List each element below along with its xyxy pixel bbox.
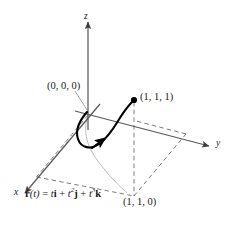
vector-function-diagram: z y x (0, 0, 0) (1, 1, 1) (1, 1, 0) r(t)… xyxy=(0,0,229,226)
y-axis xyxy=(75,111,209,146)
equation-equals: = xyxy=(42,188,48,199)
endpoint-dot xyxy=(131,97,137,103)
projection-curve-in-plane xyxy=(86,115,127,193)
equation-lhs-argument: (t) xyxy=(30,188,40,199)
curve-direction-arrow xyxy=(92,139,104,148)
square-edge-y-to-origin xyxy=(136,121,186,134)
vector-function-equation: r(t) = ti + t2j + t3k xyxy=(25,187,101,199)
endpoint-label: (1, 1, 1) xyxy=(140,92,173,103)
equation-plus-1: + xyxy=(59,188,65,199)
equation-plus-2: + xyxy=(80,188,86,199)
projection-point-label: (1, 1, 0) xyxy=(123,197,156,208)
equation-term3-unit: k xyxy=(95,188,101,199)
y-axis-label: y xyxy=(216,139,220,149)
z-axis-label: z xyxy=(84,12,88,22)
x-axis xyxy=(25,104,100,193)
square-edge-origin-to-x xyxy=(37,115,89,177)
origin-point-label: (0, 0, 0) xyxy=(47,81,80,92)
equation-term2-unit: j xyxy=(74,188,78,199)
xy-plane-projection-square xyxy=(37,115,187,196)
x-axis-label: x xyxy=(14,188,18,198)
equation-term1-unit: i xyxy=(54,188,57,199)
origin-leader-line xyxy=(75,91,89,113)
square-edge-xy-to-y xyxy=(134,134,186,196)
